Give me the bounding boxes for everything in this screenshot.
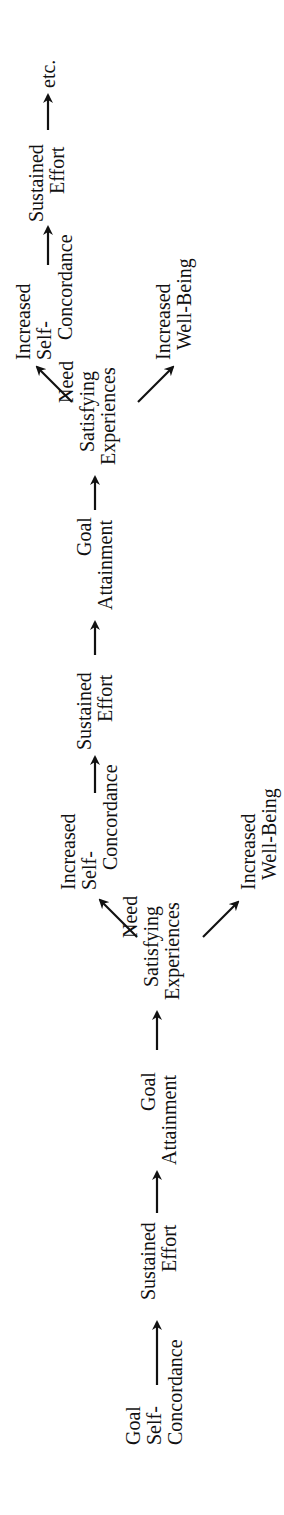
node-increased-self-concordance-1: Increased Self- Concordance xyxy=(58,764,121,890)
arrow-icon xyxy=(203,902,238,937)
node-line: etc. xyxy=(38,60,59,88)
node-line: Self- xyxy=(79,764,100,890)
arrow-icon xyxy=(138,367,173,402)
node-line: Goal xyxy=(74,517,95,610)
node-line: Increased xyxy=(13,234,34,360)
node-line: Increased xyxy=(153,258,174,360)
node-line: Well-Being xyxy=(174,258,195,360)
node-sustained-effort-2: Sustained Effort xyxy=(74,672,116,750)
node-line: Sustained xyxy=(74,672,95,750)
node-line: Satisfying xyxy=(141,896,162,1000)
node-line: Need xyxy=(120,896,141,1000)
node-increased-well-being-2: Increased Well-Being xyxy=(153,258,195,360)
node-line: Attainment xyxy=(159,1072,180,1165)
node-goal-attainment-2: Goal Attainment xyxy=(74,517,116,610)
node-line: Well-Being xyxy=(259,788,280,890)
node-increased-self-concordance-2: Increased Self- Concordance xyxy=(13,234,76,360)
node-need-satisfying-experiences-2: Need Satisfying Experiences xyxy=(56,361,119,465)
node-line: Increased xyxy=(58,764,79,890)
node-line: Experiences xyxy=(98,361,119,465)
node-line: Effort xyxy=(95,672,116,750)
node-line: Concordance xyxy=(100,764,121,890)
node-line: Attainment xyxy=(95,517,116,610)
node-line: Goal xyxy=(138,1072,159,1165)
node-line: Increased xyxy=(238,788,259,890)
node-etc: etc. xyxy=(38,60,59,88)
node-line: Need xyxy=(56,361,77,465)
node-line: Effort xyxy=(47,144,68,222)
node-line: Satisfying xyxy=(77,361,98,465)
node-line: Concordance xyxy=(165,1339,186,1445)
node-line: Self- xyxy=(34,234,55,360)
node-line: Sustained xyxy=(26,144,47,222)
node-goal-self-concordance: Goal Self- Concordance xyxy=(123,1339,186,1445)
node-line: Self- xyxy=(144,1339,165,1445)
node-goal-attainment-1: Goal Attainment xyxy=(138,1072,180,1165)
node-increased-well-being-1: Increased Well-Being xyxy=(238,788,280,890)
node-line: Effort xyxy=(159,1222,180,1300)
self-concordance-flow-diagram: Goal Self- Concordance Sustained Effort … xyxy=(0,0,284,1515)
node-need-satisfying-experiences-1: Need Satisfying Experiences xyxy=(120,896,183,1000)
node-sustained-effort-3: Sustained Effort xyxy=(26,144,68,222)
node-line: Sustained xyxy=(138,1222,159,1300)
node-line: Concordance xyxy=(55,234,76,360)
node-line: Experiences xyxy=(162,896,183,1000)
node-line: Goal xyxy=(123,1339,144,1445)
node-sustained-effort-1: Sustained Effort xyxy=(138,1222,180,1300)
